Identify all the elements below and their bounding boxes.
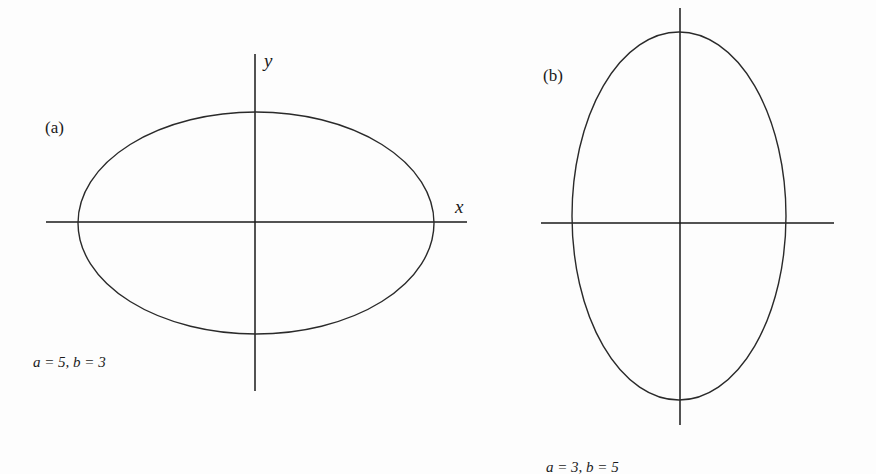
panel-a: x y (a) a = 5, b = 3 <box>33 50 467 391</box>
ellipse-figure: x y (a) a = 5, b = 3 (b) a = 3, b = 5 <box>0 0 876 474</box>
panel-a-ellipse <box>78 112 434 334</box>
panel-a-label: (a) <box>45 118 64 137</box>
panel-a-params: a = 5, b = 3 <box>33 354 106 370</box>
panel-a-y-axis-label: y <box>262 50 273 71</box>
panel-b-ellipse <box>572 32 786 400</box>
panel-b-label: (b) <box>543 66 563 85</box>
panel-b-params: a = 3, b = 5 <box>546 459 619 474</box>
panel-b: (b) a = 3, b = 5 <box>541 8 834 474</box>
panel-a-x-axis-label: x <box>454 196 464 217</box>
